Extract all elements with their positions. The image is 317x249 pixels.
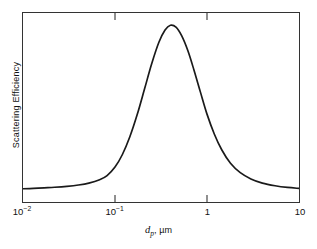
curve-path	[23, 25, 299, 189]
xtick-mantissa-3: 10	[295, 206, 306, 217]
plot-frame	[22, 12, 300, 203]
xtick-mantissa-1: 10	[105, 206, 116, 217]
xtick-label-2: 1	[205, 206, 210, 217]
x-axis-unit: µm	[159, 225, 172, 235]
xtick-label-0: 10−2	[13, 206, 31, 217]
xtick-label-1: 10−1	[105, 206, 123, 217]
xtick-mantissa-0: 10	[13, 206, 24, 217]
xtick-label-3: 10	[295, 206, 306, 217]
xtick-exponent-1: −1	[116, 205, 124, 212]
y-axis-title: Scattering Efficiency	[11, 10, 21, 200]
x-axis-title: dp, µm	[0, 224, 317, 235]
xtick-mantissa-2: 1	[205, 206, 210, 217]
xtick-exponent-0: −2	[23, 205, 31, 212]
figure-container: 10−2 10−1 1 10 dp, µm Scattering Efficie…	[0, 0, 317, 249]
scattering-efficiency-curve	[23, 13, 299, 202]
